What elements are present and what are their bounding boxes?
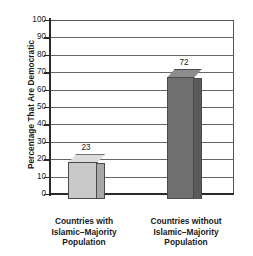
bar-side-face <box>194 78 202 199</box>
gridline <box>50 37 234 38</box>
bar-chart: Percentage That Are Democratic 100 90 80… <box>0 0 253 256</box>
y-tick-label: 10 <box>24 173 46 181</box>
gridline <box>50 90 234 91</box>
y-tick-label: 90 <box>24 33 46 41</box>
y-tick-label: 30 <box>24 138 46 146</box>
y-tick-label: 0 <box>24 190 46 198</box>
y-tick-label: 70 <box>24 68 46 76</box>
bar-countries-with-islamic-majority <box>68 154 97 199</box>
category-label-line: Population <box>32 237 136 248</box>
gridline <box>50 124 234 125</box>
category-label-line: Countries without <box>130 216 242 227</box>
y-tick-label: 20 <box>24 155 46 163</box>
y-axis-line <box>49 18 51 196</box>
gridline <box>50 55 234 56</box>
x-axis-category-label-2: Countries without Islamic–Majority Popul… <box>130 216 242 248</box>
bar-value-label: 23 <box>66 143 106 152</box>
y-tick-label: 80 <box>24 51 46 59</box>
category-label-line: Population <box>130 237 242 248</box>
category-label-line: Islamic–Majority <box>130 227 242 238</box>
bar-side-face <box>97 163 105 199</box>
y-tick-label: 50 <box>24 103 46 111</box>
bar-countries-without-islamic-majority <box>167 69 194 199</box>
bar-front-face <box>68 162 97 199</box>
x-axis-category-label-1: Countries with Islamic–Majority Populati… <box>32 216 136 248</box>
category-label-line: Countries with <box>32 216 136 227</box>
y-tick-label: 100 <box>24 16 46 24</box>
y-axis-tick-labels: 100 90 80 70 60 50 40 30 20 10 0 <box>22 20 46 194</box>
bar-front-face <box>167 77 194 199</box>
bar-value-label: 72 <box>164 58 204 67</box>
category-label-line: Islamic–Majority <box>32 227 136 238</box>
y-tick-label: 60 <box>24 86 46 94</box>
gridline <box>50 107 234 108</box>
y-tick-label: 40 <box>24 120 46 128</box>
gridline <box>50 72 234 73</box>
